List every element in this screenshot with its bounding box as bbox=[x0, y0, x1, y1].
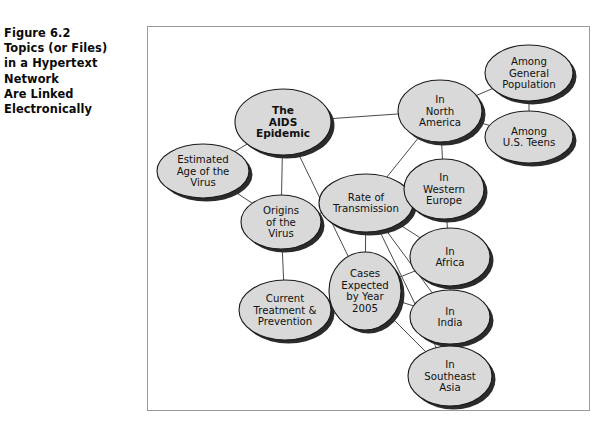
caption-line-2: in a Hypertext bbox=[4, 56, 142, 71]
hypertext-network-diagram: TheAIDSEpidemicEstimatedAge of theVirusO… bbox=[147, 26, 590, 411]
node-label-origins: Originsof theVirus bbox=[263, 205, 299, 239]
edge-origins-to-current_treatment bbox=[282, 249, 283, 280]
caption-line-4: Are Linked bbox=[4, 87, 142, 102]
figure-caption: Figure 6.2Topics (or Files)in a Hypertex… bbox=[4, 26, 142, 117]
node-southeast_asia[interactable]: InSoutheastAsia bbox=[408, 346, 496, 410]
node-current_treatment[interactable]: CurrentTreatment &Prevention bbox=[239, 280, 335, 344]
node-india[interactable]: InIndia bbox=[410, 290, 494, 348]
edge-aids-to-origins bbox=[282, 155, 283, 195]
nodes-layer: TheAIDSEpidemicEstimatedAge of theVirusO… bbox=[157, 45, 577, 410]
node-aids[interactable]: TheAIDSEpidemic bbox=[235, 89, 335, 159]
node-estimated_age[interactable]: EstimatedAge of theVirus bbox=[157, 144, 253, 202]
node-origins[interactable]: Originsof theVirus bbox=[241, 195, 325, 253]
edge-cases-to-africa bbox=[399, 271, 415, 277]
node-general_pop[interactable]: AmongGeneralPopulation bbox=[485, 45, 577, 105]
caption-line-1: Topics (or Files) bbox=[4, 41, 142, 56]
caption-line-0: Figure 6.2 bbox=[4, 26, 142, 41]
node-western_europe[interactable]: InWesternEurope bbox=[404, 159, 488, 223]
caption-line-5: Electronically bbox=[4, 102, 142, 117]
node-us_teens[interactable]: AmongU.S. Teens bbox=[485, 111, 577, 167]
network-svg: TheAIDSEpidemicEstimatedAge of theVirusO… bbox=[147, 26, 590, 411]
caption-line-3: Network bbox=[4, 72, 142, 87]
node-north_america[interactable]: InNorthAmerica bbox=[398, 80, 486, 146]
edge-north_america-to-general_pop bbox=[476, 89, 492, 96]
edge-aids-to-north_america bbox=[331, 114, 398, 119]
edge-aids-to-estimated_age bbox=[235, 144, 247, 152]
node-cases[interactable]: CasesExpectedby Year2005 bbox=[329, 252, 405, 334]
